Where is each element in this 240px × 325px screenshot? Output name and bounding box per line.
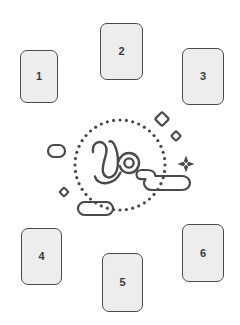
circle-dot (152, 193, 155, 196)
circle-dot (89, 197, 92, 200)
card-1-label: 1 (36, 71, 42, 82)
circle-dot (125, 208, 128, 211)
illustration-canvas: 1 2 3 4 5 6 (0, 0, 240, 325)
circle-dot (75, 151, 78, 154)
circle-dot (159, 145, 162, 148)
circle-dot (131, 120, 134, 123)
circle-dot (163, 157, 166, 160)
circle-dot (106, 120, 109, 123)
card-5[interactable]: 5 (102, 253, 143, 312)
diamond-large-icon (155, 112, 169, 126)
circle-dot (74, 170, 77, 173)
sparkle-four-point-icon (178, 156, 195, 173)
circle-dot (106, 207, 109, 210)
circle-dot (94, 126, 97, 129)
card-5-label: 5 (119, 277, 125, 288)
circle-dot (84, 193, 87, 196)
circle-dot (81, 139, 84, 142)
card-2-label: 2 (118, 46, 124, 57)
circle-dot (137, 204, 140, 207)
circle-dot (163, 163, 166, 166)
capricorn-zodiac-illustration (40, 105, 205, 220)
circle-dot (162, 151, 165, 154)
circle-dot (112, 119, 115, 122)
card-4[interactable]: 4 (21, 228, 62, 285)
circle-dot (77, 182, 80, 185)
circle-dot (156, 139, 159, 142)
circle-dot (73, 163, 76, 166)
card-4-label: 4 (38, 251, 44, 262)
circle-dot (100, 204, 103, 207)
circle-dot (118, 118, 121, 121)
card-6[interactable]: 6 (182, 224, 224, 282)
circle-dot (131, 207, 134, 210)
circle-dot (125, 119, 128, 122)
circle-dot (137, 122, 140, 125)
circle-dot (143, 201, 146, 204)
card-2[interactable]: 2 (100, 23, 143, 80)
circle-dot (159, 182, 162, 185)
card-6-label: 6 (200, 248, 206, 259)
circle-dot (100, 122, 103, 125)
circle-dot (84, 134, 87, 137)
capricorn-glyph (93, 141, 139, 183)
circle-dot (77, 145, 80, 148)
circle-dot (81, 188, 84, 191)
diamond-tiny-icon (59, 187, 68, 196)
circle-dot (75, 176, 78, 179)
circle-dot (152, 134, 155, 137)
circle-dot (118, 208, 121, 211)
card-3-label: 3 (200, 71, 206, 82)
circle-dot (89, 129, 92, 132)
diamond-small-icon (171, 131, 181, 141)
circle-dot (74, 157, 77, 160)
circle-dot (163, 170, 166, 173)
circle-dot (143, 126, 146, 129)
card-1[interactable]: 1 (20, 50, 58, 103)
card-3[interactable]: 3 (182, 48, 224, 105)
circle-dot (148, 129, 151, 132)
cloud-right (137, 170, 191, 190)
circle-dot (148, 197, 151, 200)
pill-left (48, 145, 65, 157)
